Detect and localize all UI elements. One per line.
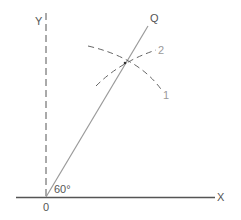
angle-label: 60° [54,183,71,195]
ray-oq [46,26,148,197]
arc-2 [96,50,156,86]
intersection-point [124,62,127,65]
x-axis-label: X [217,191,225,203]
ray-q-label: Q [150,12,159,24]
y-axis-label: Y [35,15,43,27]
arc-1-label: 1 [163,89,169,101]
arc-1 [88,46,163,92]
diagram-canvas: Y Q 2 1 60° 0 X [0,0,241,220]
arc-2-label: 2 [158,44,164,56]
origin-label: 0 [43,201,49,213]
